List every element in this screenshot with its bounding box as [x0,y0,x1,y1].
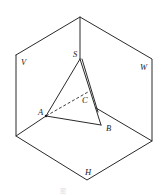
edge-ab [46,116,101,125]
label-point-b: B [106,123,111,133]
label-point-a: A [37,107,44,117]
axis-right [96,108,152,141]
edge-sb [80,59,101,125]
projection-diagram: V W H S A B C 图 [0,0,163,196]
edge-sa [46,59,80,116]
label-plane-h: H [84,167,92,177]
label-point-s: S [73,49,78,59]
figure-caption: 图 [60,188,66,195]
axis-left [16,116,46,136]
point-a-dot [45,115,47,117]
label-plane-w: W [140,62,148,72]
label-point-c: C [82,95,88,105]
label-plane-v: V [21,57,28,67]
